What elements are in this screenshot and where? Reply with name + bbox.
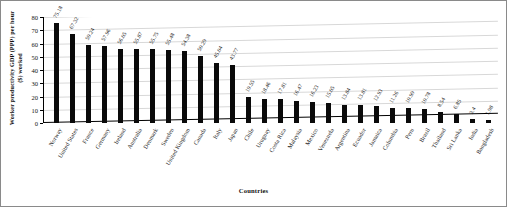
bar [86, 45, 91, 123]
bar [150, 49, 155, 123]
category-column: Germany [97, 125, 111, 183]
bar [54, 23, 59, 123]
bar [166, 50, 171, 124]
bar-column: 10.99 [401, 17, 415, 123]
bar-value-label: 59.24 [84, 26, 96, 40]
category-label: Ecuador [351, 127, 367, 148]
category-column: India [465, 125, 479, 183]
bar [182, 51, 187, 123]
bar-column: 13.84 [337, 17, 351, 123]
bar-column: 55.87 [129, 17, 143, 123]
y-axis-tick-label: 80 [32, 14, 39, 21]
y-axis-title: Worker productivity GDP (PPP) per hour (… [3, 9, 29, 127]
y-axis-tick-label: 30 [32, 80, 39, 87]
bar [214, 63, 219, 123]
bar-series: 75.1867.3259.2457.9656.0555.8755.7555.48… [43, 17, 498, 123]
bar [486, 120, 491, 123]
bar [358, 105, 363, 123]
category-label: Jamaica [368, 127, 383, 147]
y-axis-tick-label: 70 [32, 27, 39, 34]
bar [454, 114, 459, 123]
bar-column: 13.81 [353, 17, 367, 123]
bar-value-label: 16.47 [292, 83, 304, 97]
category-label: Japan [227, 127, 239, 142]
bar-column: 54.38 [177, 17, 191, 123]
bar [278, 99, 283, 123]
y-axis-tick-label: 0 [35, 120, 38, 127]
bar-value-label: 15.05 [324, 85, 336, 99]
category-label: Malaysia [286, 127, 303, 150]
bar-column: 8.54 [433, 17, 447, 123]
category-column: Italy [209, 125, 223, 183]
x-axis-title: Countries [1, 187, 506, 194]
bar-column: 12.93 [369, 17, 383, 123]
bar-value-label: 16.23 [308, 83, 320, 97]
y-axis-tick-label: 10 [32, 106, 39, 113]
category-label: Ireland [113, 127, 127, 145]
bar [342, 105, 347, 123]
bar-value-label: 56.05 [116, 30, 128, 44]
bar-column: 55.75 [145, 17, 159, 123]
bar-value-label: 55.75 [148, 31, 160, 45]
bar [374, 106, 379, 123]
category-column: Ireland [113, 125, 127, 183]
y-axis-tick-label: 60 [32, 40, 39, 47]
bar [70, 34, 75, 123]
bar [438, 112, 443, 123]
category-column: Peru [401, 125, 415, 183]
bar-column: 56.05 [113, 17, 127, 123]
bar-value-label: 67.32 [68, 16, 80, 30]
bar-column: 10.78 [417, 17, 431, 123]
category-column: Australia [129, 125, 143, 183]
bar-column: 67.32 [65, 17, 79, 123]
category-column: Columbia [385, 125, 399, 183]
bar [326, 103, 331, 123]
category-column: Japan [225, 125, 239, 183]
bar [422, 109, 427, 123]
category-label: Brazil [418, 127, 431, 143]
y-axis-tick-label: 40 [32, 67, 39, 74]
category-label: Columbia [381, 127, 398, 151]
category-label: Argentina [333, 127, 351, 151]
bar-value-label: 10.78 [420, 90, 432, 104]
bar-value-label: 54.38 [180, 33, 192, 47]
category-label: Italy [212, 127, 223, 140]
category-label: India [467, 127, 479, 141]
bar-value-label: 45.04 [212, 45, 224, 59]
bar [246, 97, 251, 123]
category-column: Argentina [337, 125, 351, 183]
bar-column: 11.26 [385, 17, 399, 123]
category-label: Chile [243, 127, 255, 142]
category-label: Peru [404, 127, 415, 140]
bar-column: 6.85 [449, 17, 463, 123]
bar-column: 55.48 [161, 17, 175, 123]
bar-column: 16.23 [305, 17, 319, 123]
bar-column: 15.05 [321, 17, 335, 123]
bar-value-label: 13.81 [356, 86, 368, 100]
category-label: Denmark [142, 127, 159, 150]
chart-figure: Worker productivity GDP (PPP) per hour (… [0, 0, 507, 207]
category-column: Jamaica [369, 125, 383, 183]
category-label: Mexico [304, 127, 319, 146]
bar-value-label: 3.4 [468, 105, 477, 114]
bar-column: 16.47 [289, 17, 303, 123]
category-label: Australia [126, 127, 143, 150]
bar-column: 19.55 [241, 17, 255, 123]
bar-value-label: 8.54 [436, 96, 446, 108]
category-column: Chile [241, 125, 255, 183]
bar-column: 17.81 [273, 17, 287, 123]
category-column: Venezuela [321, 125, 335, 183]
bar-column: 59.24 [81, 17, 95, 123]
bar-value-label: 57.96 [100, 28, 112, 42]
bar [390, 108, 395, 123]
category-column: United Kingdom [177, 125, 191, 183]
category-column: France [81, 125, 95, 183]
bar [134, 49, 139, 123]
bar-column: 3.4 [465, 17, 479, 123]
bar-column: 50.29 [193, 17, 207, 123]
bar [118, 49, 123, 123]
category-column: United States [65, 125, 79, 183]
category-label: Uruguay [255, 127, 271, 149]
bar [470, 119, 475, 124]
category-column: Ecuador [353, 125, 367, 183]
